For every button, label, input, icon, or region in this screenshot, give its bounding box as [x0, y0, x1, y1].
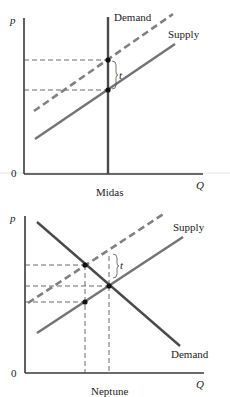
midas-y-axis-label: p [9, 14, 16, 26]
midas-x-axis-label: Q [196, 179, 204, 191]
midas-equilibrium-point [105, 87, 110, 92]
neptune-equilibrium-point [106, 283, 111, 288]
neptune-caption: Neptune [91, 385, 128, 397]
neptune-seller-price-point [82, 299, 87, 304]
neptune-demand-label: Demand [171, 348, 209, 360]
neptune-tax-brace [113, 254, 119, 278]
neptune-supply-label: Supply [173, 221, 205, 233]
neptune-buyer-price-point [82, 262, 87, 267]
midas-supply-curve [35, 44, 175, 139]
midas-equilibrium-with-tax-point [105, 57, 110, 62]
midas-figure: p Q 0 Demand Supply t Midas [0, 11, 230, 198]
neptune-figure: p Q 0 Supply Demand t Neptune [9, 212, 209, 397]
midas-caption: Midas [96, 186, 124, 198]
midas-supply-plus-tax-curve [34, 14, 173, 111]
neptune-y-axis-label: p [9, 212, 16, 224]
midas-supply-label: Supply [168, 28, 200, 40]
neptune-x-axis-label: Q [196, 378, 204, 390]
neptune-origin-label: 0 [11, 367, 17, 379]
midas-demand-label: Demand [114, 11, 152, 23]
tax-incidence-diagrams: p Q 0 Demand Supply t Midas p Q 0 [0, 0, 230, 397]
midas-origin-label: 0 [11, 167, 17, 179]
neptune-supply-plus-tax-curve [28, 213, 165, 303]
neptune-tax-label: t [120, 259, 124, 271]
